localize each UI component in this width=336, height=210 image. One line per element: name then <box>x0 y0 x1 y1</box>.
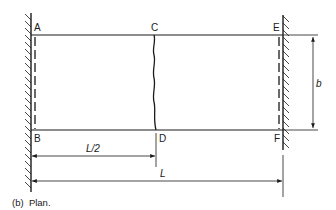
left-fixed-wall <box>25 13 31 192</box>
slab-outline <box>31 35 283 130</box>
point-label-d: D <box>159 133 166 144</box>
dim-label-span: L <box>160 168 166 179</box>
dimension-span <box>32 155 283 197</box>
figure-caption: (b) Plan. <box>12 197 51 208</box>
point-label-e: E <box>273 22 280 33</box>
point-label-a: A <box>34 22 41 33</box>
plan-diagram: A B C D E F L/2 L b (b) Plan. <box>0 0 336 210</box>
crack-line <box>153 35 156 130</box>
edge-dashes <box>35 37 279 129</box>
dim-label-width: b <box>316 78 322 89</box>
dim-label-half-span: L/2 <box>86 143 100 154</box>
point-label-c: C <box>151 22 158 33</box>
point-label-f: F <box>274 133 280 144</box>
point-label-b: B <box>34 133 41 144</box>
